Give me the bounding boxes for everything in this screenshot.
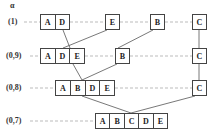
merge-edges [63,30,199,113]
node-E: E [99,81,114,95]
node-B: B [109,114,123,128]
alpha-axis-label: α [10,2,14,10]
node-E: E [153,114,167,128]
node-A: A [41,15,55,29]
node-B: B [151,15,164,29]
node-D: D [55,15,70,29]
node-C: C [193,15,206,29]
node-E: E [106,15,119,29]
level-label-0-9: (0,9) [6,52,21,60]
node-D: D [55,49,70,63]
node-C: C [193,81,206,95]
level-label-1: (1) [8,18,17,26]
node-C: C [193,49,206,63]
node-B: B [116,49,129,63]
cluster-C-level1: C [192,14,207,30]
cluster-ABCDE-level07: A B C D E [95,113,168,129]
node-A: A [96,114,109,128]
cluster-C-level08: C [192,80,207,96]
level-label-0-7: (0,7) [6,117,21,125]
node-A: A [41,49,55,63]
cluster-AD-level1: A D [40,14,70,30]
node-E: E [69,49,84,63]
cluster-C-level09: C [192,48,207,64]
level-guides [24,22,192,121]
node-A: A [56,81,70,95]
cluster-B-level1: B [150,14,165,30]
cluster-B-level09: B [115,48,130,64]
cluster-E-level1: E [105,14,120,30]
level-label-0-8: (0,8) [6,84,21,92]
cluster-ABDE-level08: A B D E [55,80,115,96]
cluster-ADE-level09: A D E [40,48,85,64]
node-D: D [85,81,100,95]
node-C: C [124,114,138,128]
node-D: D [138,114,152,128]
node-B: B [70,81,85,95]
